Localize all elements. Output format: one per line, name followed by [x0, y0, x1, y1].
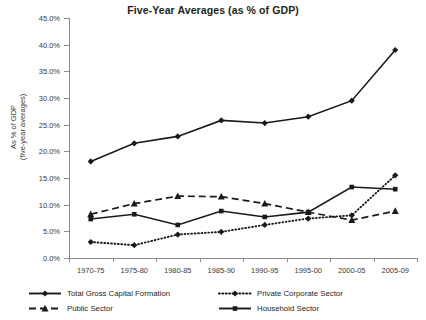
series-2 — [87, 192, 399, 223]
legend-item[interactable]: Total Gross Capital Formation — [28, 287, 170, 300]
series-0 — [88, 47, 399, 165]
data-point-marker — [306, 210, 311, 215]
legend-label: Household Sector — [257, 304, 319, 313]
legend-key-diamond-icon — [28, 288, 62, 299]
series-1 — [88, 172, 399, 248]
legend-item[interactable]: Household Sector — [218, 302, 319, 315]
data-point-marker — [132, 212, 137, 217]
plot-series-layer — [0, 0, 426, 320]
data-point-marker — [88, 158, 94, 164]
data-point-marker — [349, 185, 354, 190]
data-point-marker — [262, 222, 268, 228]
legend-item[interactable]: Private Corporate Sector — [218, 287, 343, 300]
data-point-marker — [261, 200, 268, 207]
data-point-marker — [88, 217, 93, 222]
data-point-marker — [131, 140, 137, 146]
data-point-marker — [175, 231, 181, 237]
chart-legend: Total Gross Capital FormationPrivate Cor… — [28, 287, 418, 317]
data-point-marker — [218, 117, 224, 123]
data-point-marker — [219, 209, 224, 214]
data-point-marker — [393, 187, 398, 192]
series-line — [91, 50, 396, 161]
chart-container: Five-Year Averages (as % of GDP) As % of… — [0, 0, 426, 320]
data-point-marker — [131, 242, 137, 248]
data-point-marker — [175, 223, 180, 228]
data-point-marker — [305, 215, 311, 221]
legend-label: Private Corporate Sector — [257, 289, 343, 298]
data-point-marker — [88, 239, 94, 245]
legend-key-square-icon — [218, 303, 252, 314]
legend-key-diamond-icon — [218, 288, 252, 299]
data-point-marker — [42, 290, 48, 296]
data-point-marker — [175, 133, 181, 139]
legend-label: Total Gross Capital Formation — [67, 289, 170, 298]
data-point-marker — [262, 215, 267, 220]
legend-label: Public Sector — [67, 304, 113, 313]
legend-key-triangle-icon — [28, 303, 62, 314]
data-point-marker — [305, 114, 311, 120]
data-point-marker — [233, 306, 238, 311]
data-point-marker — [232, 290, 238, 296]
data-point-marker — [392, 207, 399, 214]
legend-item[interactable]: Public Sector — [28, 302, 113, 315]
data-point-marker — [262, 120, 268, 126]
data-point-marker — [218, 229, 224, 235]
